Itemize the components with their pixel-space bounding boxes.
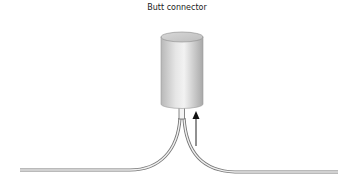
connector-cylinder — [161, 32, 203, 109]
butt-connector-diagram — [0, 0, 354, 188]
wire-left — [20, 118, 180, 170]
wire-right — [184, 118, 338, 172]
arrow-up-icon — [193, 111, 200, 146]
